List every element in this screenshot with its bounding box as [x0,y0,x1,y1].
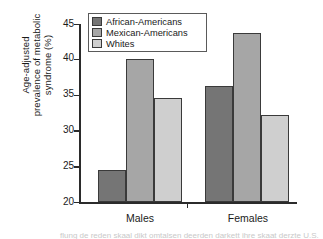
y-axis-label-line-2: prevalence of metabolic [31,14,42,117]
legend-label-whites: Whites [106,39,134,49]
legend-label-mexican-americans: Mexican-Americans [106,28,188,38]
y-tick-label-25: 25 [52,161,74,171]
bar-females-mexican-americans [233,33,261,203]
legend-item-whites: Whites [92,38,203,49]
bar-males-african-americans [98,170,126,202]
y-tick-45 [74,24,79,25]
y-tick-30 [74,130,79,131]
y-axis-line [79,24,81,203]
y-tick-label-30: 30 [52,125,74,135]
y-tick-40 [74,59,79,60]
bar-chart-figure: Age-adjusted prevalence of metabolic syn… [0,0,323,239]
clipped-caption-text: flung de reden skaal dikt omtalsen deerd… [0,230,323,239]
y-tick-label-45: 45 [52,19,74,29]
x-tick-group-separator [187,202,188,208]
legend-item-mexican-americans: Mexican-Americans [92,27,203,38]
chart-legend: African-Americans Mexican-Americans Whit… [88,13,207,52]
x-tick-label-males: Males [105,212,175,224]
y-tick-label-40: 40 [52,53,74,63]
y-axis-label-line-1: Age-adjusted [20,36,31,93]
y-tick-20 [74,202,79,203]
y-axis-label: Age-adjusted prevalence of metabolic syn… [19,0,53,145]
y-tick-label-20: 20 [52,197,74,207]
bar-males-whites [154,98,182,202]
legend-swatch-whites [92,39,102,48]
bar-males-mexican-americans [126,59,154,202]
legend-item-african-americans: African-Americans [92,16,203,27]
legend-label-african-americans: African-Americans [106,17,182,27]
y-tick-35 [74,95,79,96]
y-tick-25 [74,166,79,167]
x-tick-label-females: Females [213,212,283,224]
bar-females-african-americans [205,86,233,202]
y-axis-label-line-3: syndrome (%) [42,35,53,95]
bar-females-whites [261,115,289,202]
legend-swatch-mexican-americans [92,28,102,37]
y-tick-label-35: 35 [52,89,74,99]
legend-swatch-african-americans [92,17,102,26]
